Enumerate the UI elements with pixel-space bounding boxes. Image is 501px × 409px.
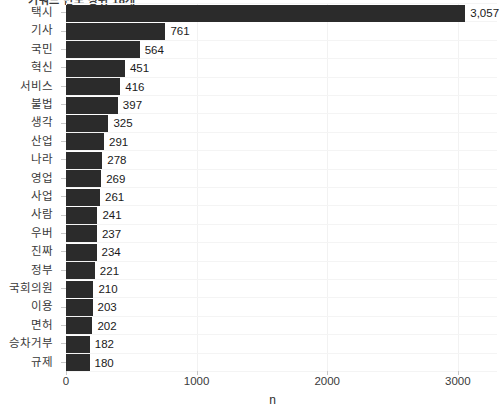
y-axis-label: 산업 <box>31 131 53 151</box>
bar-row[interactable]: 3,057 <box>66 3 497 23</box>
y-axis-label: 국회의원 <box>9 278 53 298</box>
y-axis-label: 진짜 <box>31 241 53 261</box>
y-axis-label: 생각 <box>31 112 53 132</box>
bar-value-label: 202 <box>97 318 116 334</box>
bar-chart-figure: 키워드 빈도 상위 18개 택시기사국민혁신서비스불법생각산업나라영업사업사람우… <box>0 0 501 409</box>
bar[interactable] <box>66 317 92 334</box>
y-axis-label: 사업 <box>31 186 53 206</box>
bar-row[interactable]: 761 <box>66 21 497 41</box>
x-axis-tick-label: 3000 <box>445 375 471 387</box>
bar-row[interactable]: 291 <box>66 132 497 152</box>
bar[interactable] <box>66 23 165 40</box>
y-axis-label: 영업 <box>31 168 53 188</box>
bar[interactable] <box>66 225 97 242</box>
bar-row[interactable]: 234 <box>66 242 497 262</box>
y-axis-label: 규제 <box>31 352 53 372</box>
bar[interactable] <box>66 5 465 22</box>
bar[interactable] <box>66 189 100 206</box>
bar[interactable] <box>66 170 101 187</box>
bar-value-label: 397 <box>123 97 142 113</box>
bar[interactable] <box>66 115 108 132</box>
bar-value-label: 221 <box>100 263 119 279</box>
y-axis-label: 나라 <box>31 149 53 169</box>
bar-value-label: 210 <box>98 281 117 297</box>
y-axis-label: 서비스 <box>20 76 53 96</box>
bar-value-label: 291 <box>109 134 128 150</box>
bar-value-label: 182 <box>95 336 114 352</box>
bar-row[interactable]: 451 <box>66 58 497 78</box>
y-axis-label: 승차거부 <box>9 333 53 353</box>
bar-row[interactable]: 180 <box>66 353 497 373</box>
x-axis-title: n <box>269 393 276 407</box>
bar[interactable] <box>66 152 102 169</box>
bar-row[interactable]: 325 <box>66 113 497 133</box>
bar[interactable] <box>66 41 140 58</box>
bar[interactable] <box>66 281 93 298</box>
bar[interactable] <box>66 244 97 261</box>
bar[interactable] <box>66 207 97 224</box>
y-axis-label: 혁신 <box>31 57 53 77</box>
bar-row[interactable]: 210 <box>66 279 497 299</box>
bar-row[interactable]: 397 <box>66 95 497 115</box>
x-axis: 0100020003000 n <box>0 371 501 409</box>
plot-area: 3,05776156445141639732529127826926124123… <box>66 3 497 371</box>
bar-value-label: 451 <box>130 60 149 76</box>
bar-value-label: 269 <box>106 171 125 187</box>
bar[interactable] <box>66 97 118 114</box>
x-axis-tick-label: 2000 <box>314 375 340 387</box>
y-axis: 택시기사국민혁신서비스불법생각산업나라영업사업사람우버진짜정부국회의원이용면허승… <box>0 3 66 371</box>
x-axis-tick-label: 0 <box>63 375 69 387</box>
bar-value-label: 180 <box>95 355 114 371</box>
bar-value-label: 761 <box>170 23 189 39</box>
bar[interactable] <box>66 299 93 316</box>
bar-value-label: 3,057 <box>470 5 499 21</box>
y-axis-label: 국민 <box>31 39 53 59</box>
bar-row[interactable]: 269 <box>66 169 497 189</box>
y-axis-label: 기사 <box>31 20 53 40</box>
bar-row[interactable]: 182 <box>66 334 497 354</box>
bar-row[interactable]: 416 <box>66 77 497 97</box>
bar-row[interactable]: 241 <box>66 205 497 225</box>
bar[interactable] <box>66 133 104 150</box>
x-axis-title-wrap: n <box>0 393 501 407</box>
bar-value-label: 241 <box>102 207 121 223</box>
bar-value-label: 278 <box>107 152 126 168</box>
y-axis-label: 사람 <box>31 204 53 224</box>
bar[interactable] <box>66 262 95 279</box>
y-axis-label: 면허 <box>31 315 53 335</box>
bar-row[interactable]: 278 <box>66 150 497 170</box>
bar-row[interactable]: 564 <box>66 40 497 60</box>
bar-value-label: 325 <box>113 115 132 131</box>
bar[interactable] <box>66 354 90 371</box>
bar-value-label: 234 <box>102 244 121 260</box>
bar-value-label: 416 <box>125 79 144 95</box>
bar-value-label: 261 <box>105 189 124 205</box>
bar-value-label: 237 <box>102 226 121 242</box>
bar-value-label: 203 <box>98 299 117 315</box>
bar-row[interactable]: 202 <box>66 316 497 336</box>
bar-row[interactable]: 261 <box>66 187 497 207</box>
bar-row[interactable]: 203 <box>66 297 497 317</box>
y-axis-label: 택시 <box>31 2 53 22</box>
y-axis-label: 이용 <box>31 296 53 316</box>
bar-row[interactable]: 237 <box>66 224 497 244</box>
bar-value-label: 564 <box>145 42 164 58</box>
bar[interactable] <box>66 336 90 353</box>
y-axis-label: 정부 <box>31 260 53 280</box>
y-axis-label: 불법 <box>31 94 53 114</box>
bar[interactable] <box>66 78 120 95</box>
y-axis-label: 우버 <box>31 223 53 243</box>
bar-row[interactable]: 221 <box>66 261 497 281</box>
x-axis-tick-label: 1000 <box>184 375 210 387</box>
bar[interactable] <box>66 60 125 77</box>
